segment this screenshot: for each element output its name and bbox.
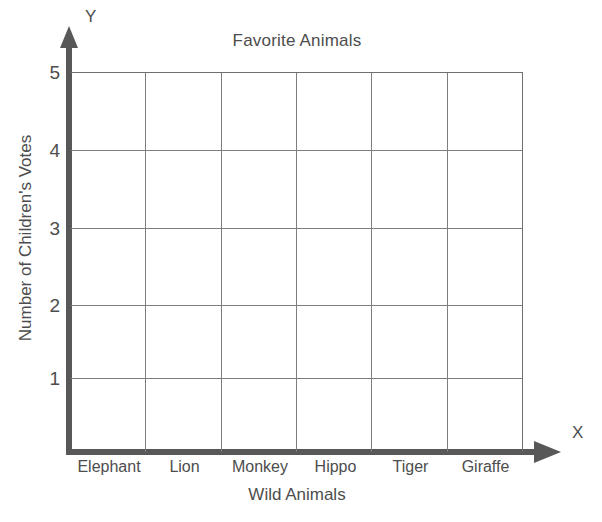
x-tick-label-lion: Lion	[147, 458, 222, 476]
column-elephant	[71, 73, 145, 452]
x-tick-label-hippo: Hippo	[298, 458, 373, 476]
y-axis-letter: Y	[85, 8, 96, 25]
column-monkey	[221, 73, 296, 452]
y-tick-label-5: 5	[30, 63, 60, 82]
column-hippo	[296, 73, 371, 452]
x-axis-title: Wild Animals	[71, 485, 523, 505]
bar-chart: Favorite Animals Y X	[0, 0, 602, 522]
column-lion	[145, 73, 220, 452]
x-tick-label-tiger: Tiger	[373, 458, 448, 476]
plot-area	[71, 72, 523, 452]
x-axis-letter: X	[572, 424, 583, 441]
x-tick-label-monkey: Monkey	[222, 458, 298, 476]
column-giraffe	[447, 73, 522, 452]
x-tick-label-elephant: Elephant	[71, 458, 147, 476]
x-tick-label-giraffe: Giraffe	[448, 458, 523, 476]
y-axis-title: Number of Children's Votes	[16, 103, 36, 373]
column-tiger	[371, 73, 446, 452]
